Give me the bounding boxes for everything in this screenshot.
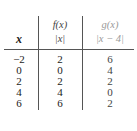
column-divider-2 — [82, 16, 83, 110]
cell-g: 2 — [86, 98, 134, 109]
header-underline — [4, 49, 134, 50]
header-x: x — [4, 34, 34, 45]
header-f-name: f(x) — [40, 19, 80, 30]
cell-x: 6 — [4, 98, 34, 109]
column-divider-1 — [38, 16, 39, 110]
header-g-expr: |x − 4| — [86, 33, 134, 44]
header-g-name: g(x) — [86, 19, 134, 30]
cell-f: 6 — [40, 98, 80, 109]
header-f-expr: |x| — [40, 33, 80, 44]
function-value-table: x f(x) |x| g(x) |x − 4| −2 2 6 0 0 4 2 2… — [0, 0, 137, 131]
